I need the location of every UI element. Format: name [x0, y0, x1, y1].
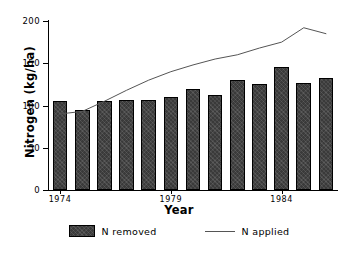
legend-item-n-applied: N applied: [205, 226, 290, 237]
chart-legend: N removed N applied: [0, 225, 358, 237]
plot-area: [49, 21, 337, 190]
chart-figure: Nitrogen (kg/ha) Year 050100150200 19741…: [0, 0, 358, 259]
x-tick-label: 1974: [40, 195, 80, 204]
legend-line-icon: [205, 231, 235, 232]
n-applied-polyline: [60, 28, 326, 114]
legend-item-n-removed: N removed: [69, 225, 157, 237]
y-tick-mark: [43, 190, 49, 191]
legend-label: N removed: [102, 226, 157, 237]
x-tick-mark: [171, 190, 172, 194]
x-tick-mark: [282, 190, 283, 194]
x-axis-title: Year: [0, 203, 358, 217]
x-tick-label: 1984: [262, 195, 302, 204]
x-tick-mark: [60, 190, 61, 194]
x-axis-line: [48, 190, 338, 191]
y-tick-label: 0: [0, 185, 40, 195]
legend-swatch-icon: [69, 225, 95, 237]
y-tick-label: 200: [0, 16, 40, 26]
legend-label: N applied: [242, 226, 290, 237]
y-tick-label: 50: [0, 143, 40, 153]
y-tick-label: 100: [0, 101, 40, 111]
line-series-n-applied: [49, 21, 337, 190]
y-tick-label: 150: [0, 58, 40, 68]
x-tick-label: 1979: [151, 195, 191, 204]
